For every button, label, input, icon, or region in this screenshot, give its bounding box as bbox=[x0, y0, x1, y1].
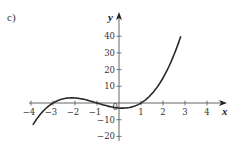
part-label: c) bbox=[7, 11, 16, 24]
y-tick-label: 40 bbox=[104, 31, 115, 41]
x-tick-label: −4 bbox=[23, 107, 36, 117]
y-ticks: −20−1010203040 bbox=[97, 31, 121, 141]
x-tick-label: 4 bbox=[204, 107, 209, 117]
axes bbox=[29, 18, 222, 141]
x-tick-label: 1 bbox=[138, 107, 143, 117]
x-tick-label: −2 bbox=[67, 107, 80, 117]
y-tick-label: 20 bbox=[104, 65, 115, 75]
x-tick-label: 2 bbox=[160, 107, 165, 117]
y-tick-label: 30 bbox=[104, 48, 115, 58]
y-tick-label: −10 bbox=[97, 115, 115, 125]
y-tick-label: 10 bbox=[104, 81, 115, 91]
cubic-function-chart: c) x y −4−3−2−101234 −20−1010203040 bbox=[0, 0, 237, 147]
y-tick-label: −20 bbox=[97, 131, 115, 141]
y-axis-label: y bbox=[106, 11, 113, 23]
x-axis-label: x bbox=[221, 105, 228, 117]
x-tick-label: 3 bbox=[182, 107, 187, 117]
